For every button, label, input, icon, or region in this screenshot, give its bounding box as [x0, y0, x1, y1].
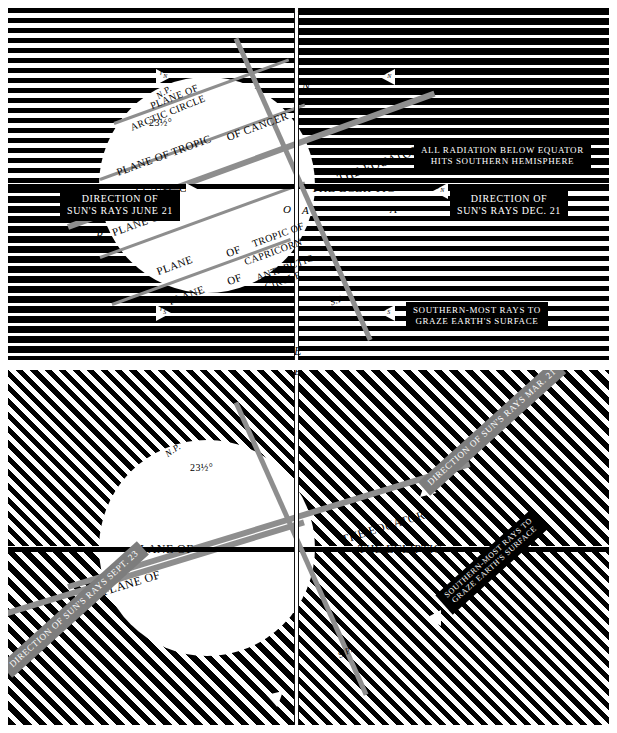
plaque-line-1: DIRECTION OF: [67, 193, 173, 205]
astronomy-diagram: rN rN rS rS rN P N E B A A N.P. S.P. 23½…: [0, 0, 617, 733]
vertical-reference-axis-equinox: [294, 370, 299, 725]
solstice-panel: rN rN rS rS rN P N E B A A N.P. S.P. 23½…: [8, 8, 609, 360]
axis-label-O-origin: O: [283, 204, 291, 215]
axis-label-P: P: [298, 8, 306, 14]
ray-arrow-grazing-equinox: [426, 610, 441, 626]
tilt-angle-label-equinox: 23½°: [190, 463, 213, 473]
plaque-direction-june-21: DIRECTION OF SUN'S RAYS JUNE 21: [60, 190, 180, 221]
plaque-line-1: DIRECTION OF: [457, 193, 561, 205]
plaque-line-2: SUN'S RAYS DEC. 21: [457, 205, 561, 217]
ray-arrow-equator-left: [186, 183, 201, 199]
axis-label-A-right-edge: A: [390, 204, 397, 215]
label-the-ecliptic-solstice: THE ECLIPTIC: [311, 182, 395, 194]
axis-label-N: N: [302, 80, 310, 92]
axis-label-E-equinox: E: [294, 370, 301, 377]
plaque-line-1: SOUTHERN-MOST RAYS TO: [413, 305, 541, 316]
equator-horizontal-band: [8, 184, 609, 189]
ray-label-rN-2: rN: [384, 68, 391, 79]
plaque-line-2: SUN'S RAYS JUNE 21: [67, 205, 173, 217]
ray-label-rN-3: rN: [437, 182, 444, 193]
vertical-reference-axis: [294, 8, 299, 360]
quadrant-bottom-right-eq: [298, 549, 609, 725]
ray-label-rS-2: rS: [384, 304, 390, 315]
ray-label-rN-1: rN: [160, 68, 167, 79]
axis-label-B: B: [96, 230, 103, 241]
ray-label-rS-1: rS: [160, 304, 166, 315]
equinox-panel: E N.P. S.P. 23½° THE EQUATOR PLANE OF TH…: [8, 370, 609, 725]
axis-label-A: A: [302, 205, 309, 216]
plaque-line-2: HITS SOUTHERN HEMISPHERE: [421, 156, 584, 167]
plaque-line-2: GRAZE EARTH'S SURFACE: [413, 316, 541, 327]
plaque-line-1: ALL RADIATION BELOW EQUATOR: [421, 145, 584, 156]
label-the-ecliptic-equinox: THE ECLIPTIC: [358, 543, 442, 555]
plaque-all-radiation-note: ALL RADIATION BELOW EQUATOR HITS SOUTHER…: [414, 142, 591, 170]
axis-label-E: E: [294, 345, 302, 357]
plaque-southernmost-rays-note: SOUTHERN-MOST RAYS TO GRAZE EARTH'S SURF…: [406, 302, 548, 330]
plaque-direction-dec-21: DIRECTION OF SUN'S RAYS DEC. 21: [450, 190, 568, 221]
